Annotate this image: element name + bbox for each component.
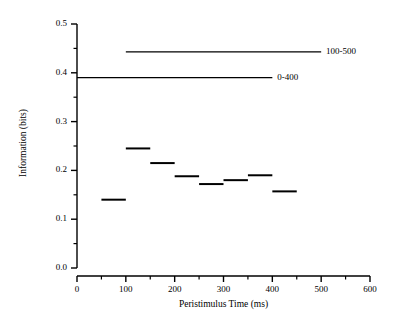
y-tick-label: 0.1 (37, 214, 67, 223)
y-tick-label: 0.4 (37, 68, 67, 77)
information-vs-peristimulus-time-chart: 0.00.10.20.30.40.50100200300400500600 10… (0, 0, 399, 325)
x-axis-title: Peristimulus Time (ms) (77, 299, 370, 309)
series-label-100-500: 100-500 (326, 47, 356, 56)
x-tick-label: 300 (204, 285, 244, 294)
y-tick-label: 0.3 (37, 117, 67, 126)
x-tick-label: 100 (106, 285, 146, 294)
x-tick-label: 500 (301, 285, 341, 294)
axis-lines (77, 24, 370, 276)
x-tick-label: 400 (252, 285, 292, 294)
x-tick-label: 600 (350, 285, 390, 294)
axis-ticks (71, 24, 370, 282)
y-axis-title: Information (bits) (18, 73, 28, 213)
x-tick-label: 0 (57, 285, 97, 294)
y-tick-label: 0.5 (37, 19, 67, 28)
series-label-0-400: 0-400 (277, 73, 298, 82)
y-tick-label: 0.0 (37, 263, 67, 272)
y-tick-label: 0.2 (37, 165, 67, 174)
x-tick-label: 200 (155, 285, 195, 294)
